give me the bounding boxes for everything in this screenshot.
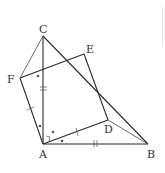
label-e: E xyxy=(86,43,94,56)
label-c: C xyxy=(39,23,47,36)
angle-dot-cad xyxy=(52,131,55,134)
label-d: D xyxy=(104,123,113,136)
segment-fa xyxy=(20,78,43,144)
label-b: B xyxy=(147,148,155,161)
label-f: F xyxy=(7,73,15,86)
angle-dot-fac xyxy=(39,125,42,128)
angle-dot-f xyxy=(37,75,40,78)
angle-dot-dab xyxy=(61,140,64,143)
segment-cb xyxy=(43,36,148,144)
segment-cf xyxy=(20,36,43,78)
geometry-diagram: C E F A D B xyxy=(0,0,165,173)
label-a: A xyxy=(38,148,48,161)
edge-divider xyxy=(162,6,163,46)
angle-mark-a xyxy=(46,136,50,141)
segment-fe xyxy=(20,54,84,78)
segment-ed xyxy=(84,54,108,120)
